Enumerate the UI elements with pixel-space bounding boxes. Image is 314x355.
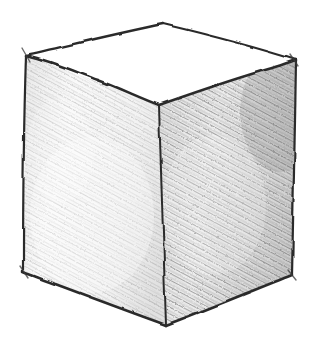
sketch-canvas: Pencil sketch of a cube graphite pencil … bbox=[0, 0, 314, 355]
cube-drawing bbox=[0, 0, 314, 355]
